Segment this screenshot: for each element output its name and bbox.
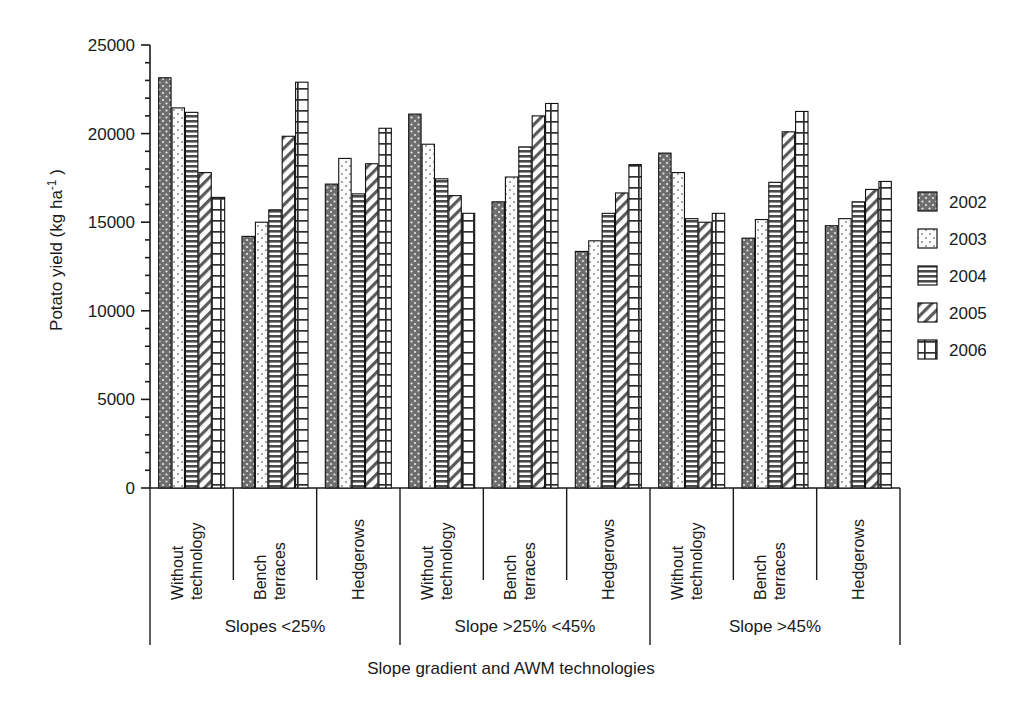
bar [839,219,851,488]
bar [505,177,517,488]
bar [159,78,171,488]
bar [492,202,504,488]
bar [269,210,281,488]
bar [616,193,628,488]
bar [422,144,434,488]
bar [325,184,337,488]
bar [339,158,351,488]
bar [449,196,461,488]
bar [409,114,421,488]
category-label: Without [419,545,436,600]
category-label: Without [669,545,686,600]
category-label: Hedgerows [350,519,367,600]
x-axis-title: Slope gradient and AWM technologies [367,659,655,678]
legend-label: 2005 [949,304,987,323]
bar [435,179,447,488]
bar [242,236,254,488]
bar [352,194,364,488]
bar [879,181,891,488]
category-label: Bench [252,555,269,600]
bar [769,182,781,488]
category-label: technology [188,523,205,600]
bar [575,251,587,488]
category-label: Without [169,545,186,600]
bar [255,222,267,488]
group-label: Slope >45% [729,617,821,636]
category-label: technology [688,523,705,600]
y-tick-label: 20000 [88,125,135,144]
bar [699,222,711,488]
bar [546,103,558,488]
bar [825,226,837,488]
category-label: Hedgerows [850,519,867,600]
bar [712,213,724,488]
bar [172,108,184,488]
category-label: terraces [521,542,538,600]
bar [602,213,614,488]
bar [589,241,601,488]
group-label: Slopes <25% [225,617,326,636]
category-label: Bench [752,555,769,600]
y-axis-title: Potato yield (kg ha-1 ) [45,169,66,331]
category-label: Hedgerows [600,519,617,600]
y-tick-label: 25000 [88,36,135,55]
category-label: terraces [271,542,288,600]
chart-figure: 2500020000150001000050000 Withouttechnol… [0,0,1028,706]
y-tick-label: 5000 [97,390,135,409]
bar [532,116,544,488]
bar [782,132,794,488]
legend-swatch [918,266,937,285]
bar [742,238,754,488]
y-tick-label: 15000 [88,213,135,232]
potato-yield-bar-chart: 2500020000150001000050000 Withouttechnol… [0,0,1028,706]
group-label: Slope >25% <45% [455,617,596,636]
bar [379,128,391,488]
bar [185,112,197,488]
bar [366,164,378,488]
bar [866,189,878,488]
bar [852,202,864,488]
legend-swatch [918,192,937,211]
y-tick-label: 10000 [88,302,135,321]
bar [519,147,531,488]
bar [462,213,474,488]
bar [672,173,684,488]
bar [755,220,767,488]
bar [296,82,308,488]
bar [629,165,641,488]
legend-label: 2004 [949,267,987,286]
bar [659,153,671,488]
legend-swatch [918,303,937,322]
bar [796,111,808,488]
bar [685,219,697,488]
bar [282,136,294,488]
bar [199,173,211,488]
legend-swatch [918,229,937,248]
bar [212,197,224,488]
category-label: technology [438,523,455,600]
category-label: Bench [502,555,519,600]
legend-label: 2003 [949,230,987,249]
legend-label: 2006 [949,341,987,360]
group-labels: Slopes <25%Slope >25% <45%Slope >45% [225,617,821,636]
legend-swatch [918,340,937,359]
legend-label: 2002 [949,193,987,212]
category-label: terraces [771,542,788,600]
y-tick-label: 0 [126,479,135,498]
